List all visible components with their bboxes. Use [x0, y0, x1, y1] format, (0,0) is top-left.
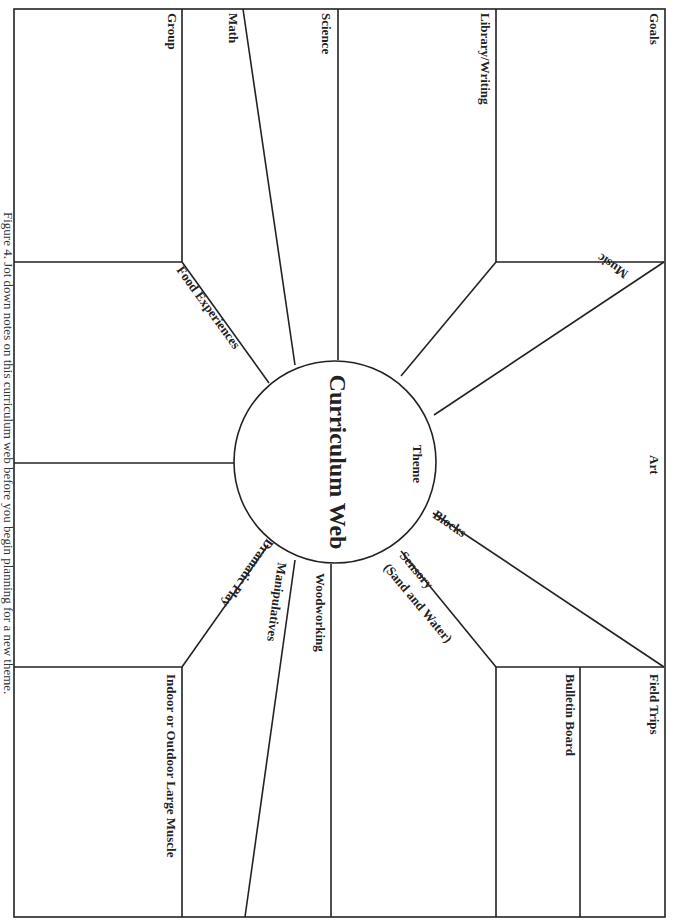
figure-caption: Figure 4. Jot down notes on this curricu… [1, 212, 16, 694]
label-art: Art [647, 455, 662, 475]
label-dramatic-play: Dramatic Play [218, 536, 277, 611]
group-box-line [14, 9, 182, 262]
label-field-trips: Field Trips [647, 674, 662, 735]
label-manipulatives: Manipulatives [264, 562, 290, 643]
goals-box-line [496, 9, 664, 262]
label-food-experiences: Food Experiences [174, 263, 244, 352]
center-label-theme: Theme [410, 445, 425, 484]
label-bulletin-board: Bulletin Board [563, 674, 578, 757]
library-writing-line [401, 262, 496, 376]
label-music: Music [594, 250, 631, 282]
label-group: Group [165, 13, 180, 50]
diagram-title: Curriculum Web [325, 375, 351, 550]
math-line [243, 9, 295, 365]
music-line [434, 262, 664, 415]
curriculum-web-diagram: Curriculum Web Theme Goals Library/Writi… [0, 0, 676, 924]
label-blocks: Blocks [430, 507, 469, 540]
label-library-writing: Library/Writing [478, 13, 493, 105]
blocks-line [433, 513, 664, 667]
label-science: Science [319, 13, 334, 54]
label-woodworking: Woodworking [313, 573, 328, 652]
label-math: Math [226, 13, 241, 44]
indoor-box-line [14, 667, 182, 917]
label-indoor-outdoor-large-muscle: Indoor or Outdoor Large Muscle [164, 674, 179, 858]
label-goals: Goals [647, 13, 662, 45]
